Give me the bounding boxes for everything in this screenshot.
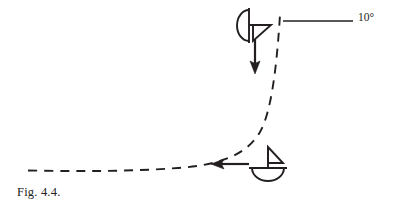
heading-arrow-down [250,39,260,74]
heading-arrow-left [211,159,249,169]
boat-bottom-sail [268,147,283,163]
boat-top-rotated-icon [237,8,271,43]
angle-label: 10° [358,12,374,24]
figure-container: 10° Fig. 4.4. [0,0,399,211]
figure-drawing-canvas [0,0,399,211]
boat-top-hull [237,10,249,41]
boat-bottom-hull [252,168,284,181]
boat-bottom-icon [249,147,287,181]
figure-caption: Fig. 4.4. [17,186,60,200]
boat-top-sail [253,25,271,41]
